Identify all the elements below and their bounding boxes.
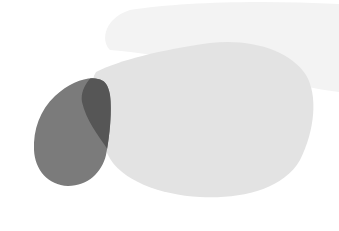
light-gray-blob — [91, 42, 313, 197]
shapes-svg — [0, 0, 339, 231]
abstract-shapes-canvas — [0, 0, 339, 231]
